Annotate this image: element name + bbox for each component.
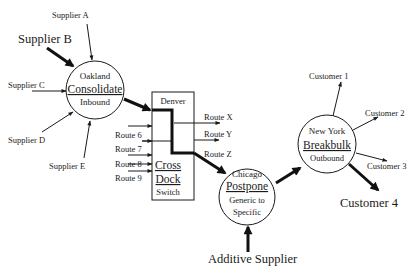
denver-city: Denver xyxy=(160,96,185,106)
customer-2-flow: Customer 2 xyxy=(353,108,404,130)
arrow-icon xyxy=(333,82,341,116)
thick-arrow-icon xyxy=(276,168,300,183)
supplier-b-label: Supplier B xyxy=(18,32,72,46)
route-7-label: Route 7 xyxy=(115,144,142,154)
thick-arrow-icon xyxy=(47,48,73,66)
new-york-sub: Outbound xyxy=(310,153,345,163)
denver-function-line1: Cross xyxy=(155,159,182,171)
customer-1-label: Customer 1 xyxy=(309,71,348,81)
thick-arrow-icon xyxy=(124,99,150,110)
supply-chain-diagram: Supplier A Supplier B Supplier C Supplie… xyxy=(0,0,419,272)
supplier-a-label: Supplier A xyxy=(52,10,89,20)
supplier-c-flow: Supplier C xyxy=(8,80,66,91)
route-6-label: Route 6 xyxy=(115,130,142,140)
new-york-city: New York xyxy=(309,126,346,136)
new-york-function: Breakbulk xyxy=(303,139,351,151)
arrow-icon xyxy=(356,153,387,161)
chicago-city: Chicago xyxy=(232,169,262,179)
customer-3-label: Customer 3 xyxy=(367,161,406,171)
arrow-icon xyxy=(84,121,90,158)
customer-4-label: Customer 4 xyxy=(340,196,399,210)
customer-3-flow: Customer 3 xyxy=(356,153,406,171)
supplier-d-label: Supplier D xyxy=(8,135,45,145)
additive-supplier-label: Additive Supplier xyxy=(208,252,298,266)
additive-supplier-flow: Additive Supplier xyxy=(208,227,298,266)
chicago-sub-line2: Specific xyxy=(233,207,261,217)
route-8-label: Route 8 xyxy=(115,159,142,169)
supplier-b-flow: Supplier B xyxy=(18,32,73,66)
customer-1-flow: Customer 1 xyxy=(309,71,348,116)
denver-function-line2: Dock xyxy=(156,173,181,185)
route-x-label: Route X xyxy=(204,112,233,122)
route-9-label: Route 9 xyxy=(115,173,142,183)
new-york-node: New York Breakbulk Outbound xyxy=(298,115,356,173)
supplier-d-flow: Supplier D xyxy=(8,112,73,145)
chicago-sub-line1: Generic to xyxy=(229,195,265,205)
supplier-e-label: Supplier E xyxy=(49,161,85,171)
supplier-c-label: Supplier C xyxy=(8,80,45,90)
oakland-node: Oakland Consolidate Inbound xyxy=(66,61,124,119)
denver-sub: Switch xyxy=(156,187,180,197)
oakland-sub: Inbound xyxy=(80,97,110,107)
oakland-function: Consolidate xyxy=(68,83,123,95)
route-z-label: Route Z xyxy=(204,149,232,159)
arrow-icon xyxy=(42,112,73,132)
arrow-icon xyxy=(353,117,378,130)
route-y-label: Route Y xyxy=(204,129,232,139)
chicago-node: Chicago Postpone Generic to Specific xyxy=(219,169,275,225)
oakland-city: Oakland xyxy=(80,71,111,81)
supplier-e-flow: Supplier E xyxy=(49,121,90,171)
chicago-function: Postpone xyxy=(226,180,268,193)
customer-2-label: Customer 2 xyxy=(365,108,404,118)
arrow-icon xyxy=(87,24,92,60)
